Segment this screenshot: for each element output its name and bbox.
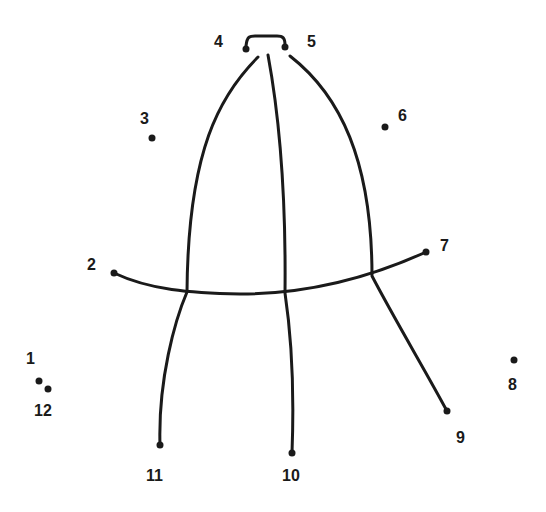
dot-label-2: 2 bbox=[87, 256, 96, 273]
dot-2 bbox=[111, 270, 118, 277]
dot-label-4: 4 bbox=[214, 33, 223, 50]
dot-12 bbox=[45, 386, 52, 393]
dot-label-12: 12 bbox=[34, 402, 52, 419]
handle-line bbox=[246, 36, 285, 46]
dot-3 bbox=[149, 135, 156, 142]
dot-label-10: 10 bbox=[282, 467, 300, 484]
dot-label-7: 7 bbox=[440, 237, 449, 254]
dot-8 bbox=[511, 357, 518, 364]
dot-label-6: 6 bbox=[398, 107, 407, 124]
dot-1 bbox=[36, 378, 43, 385]
dots-group: 123456789101112 bbox=[26, 33, 518, 484]
dot-9 bbox=[444, 408, 451, 415]
predrawn-lines bbox=[114, 36, 447, 453]
dot-label-5: 5 bbox=[307, 33, 316, 50]
dot-label-1: 1 bbox=[26, 350, 35, 367]
dot-11 bbox=[157, 442, 164, 449]
dot-label-11: 11 bbox=[146, 467, 163, 484]
dot-label-3: 3 bbox=[140, 110, 149, 127]
dot-7 bbox=[423, 249, 430, 256]
dot-label-8: 8 bbox=[508, 376, 517, 393]
dot-6 bbox=[382, 124, 389, 131]
dot-4 bbox=[243, 46, 250, 53]
center-line bbox=[268, 55, 293, 453]
dot-5 bbox=[282, 44, 289, 51]
left-arc-line bbox=[160, 57, 258, 445]
dot-10 bbox=[289, 450, 296, 457]
right-arc-line bbox=[290, 56, 447, 411]
dot-label-9: 9 bbox=[456, 429, 465, 446]
dot-to-dot-drawing: 123456789101112 bbox=[0, 0, 546, 512]
